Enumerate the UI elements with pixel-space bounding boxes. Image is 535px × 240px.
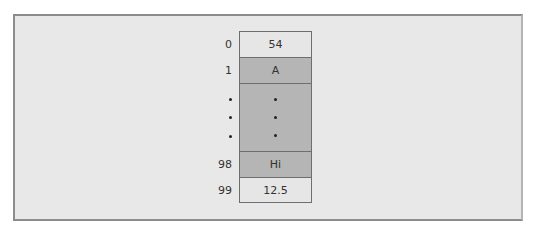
- array-index-label: 99: [202, 184, 232, 197]
- index-ellipsis: [229, 84, 232, 152]
- array-cell-99: 99 12.5: [239, 177, 312, 203]
- ellipsis-dot-icon: [229, 98, 232, 101]
- ellipsis-dot-icon: [274, 116, 277, 119]
- array-diagram: 0 54 1 A 98 Hi 99 12.5: [239, 31, 312, 203]
- array-cell-value: 12.5: [263, 184, 288, 197]
- ellipsis-dot-icon: [274, 134, 277, 137]
- array-cell-98: 98 Hi: [239, 151, 312, 177]
- array-cell-value: 54: [269, 38, 283, 51]
- array-cell-value: Hi: [270, 158, 281, 171]
- array-cell-0: 0 54: [239, 31, 312, 57]
- array-index-label: 98: [202, 158, 232, 171]
- array-cell-value: A: [272, 64, 280, 77]
- array-index-label: 0: [202, 38, 232, 51]
- array-cell-1: 1 A: [239, 57, 312, 83]
- ellipsis-dot-icon: [229, 116, 232, 119]
- ellipsis-dot-icon: [274, 98, 277, 101]
- array-index-label: 1: [202, 64, 232, 77]
- array-cell-ellipsis: [239, 83, 312, 151]
- ellipsis-dot-icon: [229, 135, 232, 138]
